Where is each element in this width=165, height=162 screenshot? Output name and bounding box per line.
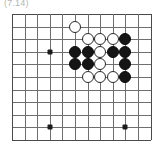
black-stone-e3[interactable]: [69, 46, 81, 58]
go-board[interactable]: [7, 9, 159, 155]
black-stone-f3[interactable]: [82, 46, 94, 58]
white-stone-g4[interactable]: [94, 58, 106, 70]
white-stone-h2[interactable]: [107, 33, 119, 45]
black-stone-i2[interactable]: [119, 33, 131, 45]
white-stone-g2[interactable]: [94, 33, 106, 45]
white-stone-g5[interactable]: [94, 71, 106, 83]
white-stone-g3[interactable]: [94, 46, 106, 58]
white-stone-e1[interactable]: [69, 21, 81, 33]
white-stone-f2[interactable]: [82, 33, 94, 45]
go-diagram-figure: (7.14): [0, 0, 165, 162]
black-stone-e4[interactable]: [69, 58, 81, 70]
black-stone-i3[interactable]: [119, 46, 131, 58]
figure-caption: (7.14): [4, 0, 29, 8]
white-stone-f5[interactable]: [82, 71, 94, 83]
white-stone-h5[interactable]: [107, 71, 119, 83]
black-stone-h3[interactable]: [107, 46, 119, 58]
black-stone-i5[interactable]: [119, 71, 131, 83]
black-stone-f4[interactable]: [82, 58, 94, 70]
black-stone-i4[interactable]: [119, 58, 131, 70]
board-stones[interactable]: [7, 9, 159, 155]
